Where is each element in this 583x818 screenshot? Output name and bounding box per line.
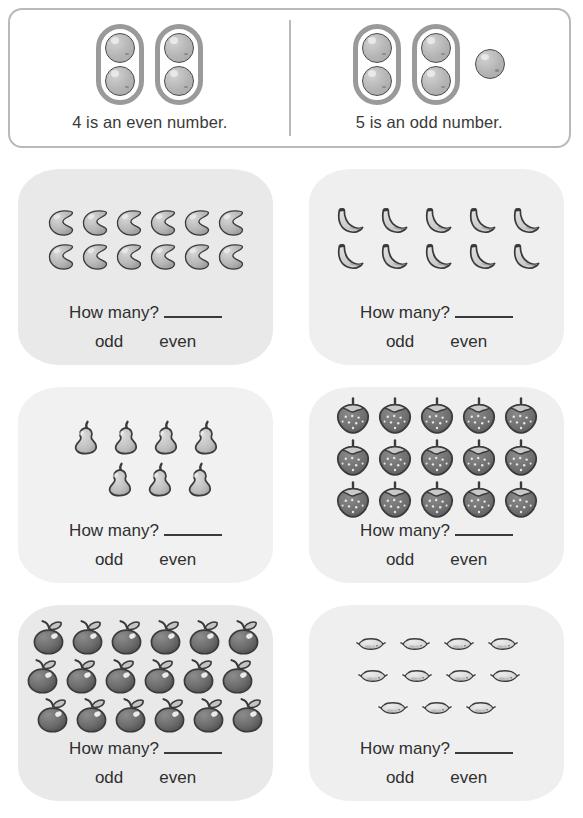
object-row: [332, 438, 542, 478]
choice-odd[interactable]: odd: [95, 768, 123, 788]
choice-even[interactable]: even: [450, 768, 487, 788]
answer-blank[interactable]: [455, 522, 513, 536]
choice-odd[interactable]: odd: [386, 332, 414, 352]
choice-even[interactable]: even: [450, 550, 487, 570]
pear-icon: [147, 417, 185, 457]
strawberry-icon: [375, 438, 415, 478]
pear-icon: [141, 459, 179, 499]
bean-icon: [181, 241, 213, 273]
strawberry-icon: [501, 396, 541, 436]
how-many-label: How many?: [69, 739, 159, 759]
problem-cell: How many?oddeven: [0, 594, 291, 812]
object-row: [33, 697, 267, 734]
example-odd-objects: [353, 18, 505, 110]
bean-icon: [79, 207, 111, 239]
answer-blank[interactable]: [164, 522, 222, 536]
strawberry-icon: [459, 438, 499, 478]
banana-icon: [415, 205, 459, 239]
bean-icon: [215, 241, 247, 273]
object-group-bean: [18, 179, 273, 301]
answer-blank[interactable]: [455, 304, 513, 318]
strawberry-icon: [501, 438, 541, 478]
strawberry-icon: [375, 480, 415, 520]
apple-icon: [151, 697, 188, 734]
example-box: 4 is an even number. 5 is an odd number.: [8, 8, 571, 148]
lemon-icon: [350, 629, 392, 659]
pear-icon: [67, 417, 105, 457]
parity-choices: oddeven: [386, 332, 487, 352]
how-many-label: How many?: [360, 739, 450, 759]
object-row: [371, 693, 503, 723]
banana-icon: [327, 241, 371, 275]
problem-card-strawberry: How many?oddeven: [309, 387, 564, 583]
example-odd: 5 is an odd number.: [290, 10, 570, 146]
choice-odd[interactable]: odd: [386, 550, 414, 570]
answer-blank[interactable]: [164, 740, 222, 754]
choice-odd[interactable]: odd: [386, 768, 414, 788]
choice-even[interactable]: even: [159, 332, 196, 352]
apple-icon: [180, 658, 217, 695]
strawberry-icon: [459, 396, 499, 436]
object-row: [100, 459, 220, 499]
ball-icon: [105, 33, 135, 63]
apple-icon: [63, 658, 100, 695]
strawberry-icon: [333, 438, 373, 478]
object-row: [332, 396, 542, 436]
how-many-prompt: How many?: [69, 521, 222, 541]
apple-icon: [34, 697, 71, 734]
answer-blank[interactable]: [455, 740, 513, 754]
lemon-icon: [460, 693, 502, 723]
ball-icon: [105, 66, 135, 96]
apple-icon: [30, 619, 67, 656]
apple-icon: [219, 658, 256, 695]
choice-odd[interactable]: odd: [95, 550, 123, 570]
bean-icon: [45, 207, 77, 239]
choice-even[interactable]: even: [159, 768, 196, 788]
apple-icon: [225, 619, 262, 656]
bean-icon: [113, 241, 145, 273]
ball-icon: [362, 33, 392, 63]
pear-icon: [101, 459, 139, 499]
choice-odd[interactable]: odd: [95, 332, 123, 352]
object-row: [66, 417, 226, 457]
choice-even[interactable]: even: [450, 332, 487, 352]
pair-group: [353, 24, 401, 105]
answer-blank[interactable]: [164, 304, 222, 318]
problem-cell: How many?oddeven: [291, 594, 582, 812]
banana-icon: [503, 205, 547, 239]
ball-icon: [421, 33, 451, 63]
choice-even[interactable]: even: [159, 550, 196, 570]
banana-icon: [459, 205, 503, 239]
parity-choices: oddeven: [386, 768, 487, 788]
object-row: [332, 480, 542, 520]
how-many-prompt: How many?: [69, 303, 222, 323]
lemon-icon: [372, 693, 414, 723]
parity-choices: oddeven: [386, 550, 487, 570]
how-many-prompt: How many?: [360, 303, 513, 323]
bean-icon: [147, 241, 179, 273]
object-group-pear: [18, 397, 273, 519]
lemon-icon: [440, 661, 482, 691]
apple-icon: [186, 619, 223, 656]
pear-icon: [107, 417, 145, 457]
apple-icon: [73, 697, 110, 734]
lemon-icon: [352, 661, 394, 691]
strawberry-icon: [459, 480, 499, 520]
object-group-apple: [18, 615, 273, 737]
pear-icon: [181, 459, 219, 499]
how-many-prompt: How many?: [360, 739, 513, 759]
how-many-label: How many?: [69, 303, 159, 323]
ball-icon: [421, 66, 451, 96]
apple-icon: [147, 619, 184, 656]
example-even: 4 is an even number.: [10, 10, 290, 146]
apple-icon: [229, 697, 266, 734]
bean-icon: [113, 207, 145, 239]
strawberry-icon: [375, 396, 415, 436]
parity-choices: oddeven: [95, 332, 196, 352]
bean-icon: [181, 207, 213, 239]
banana-icon: [327, 205, 371, 239]
banana-icon: [371, 205, 415, 239]
object-row: [29, 619, 263, 656]
problem-cell: How many?oddeven: [291, 158, 582, 376]
pair-group: [155, 24, 203, 105]
